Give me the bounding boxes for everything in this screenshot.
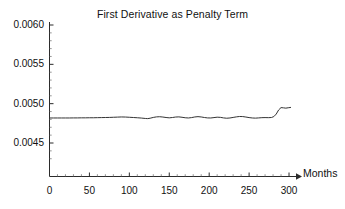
chart-figure: First Derivative as Penalty Term 0.00450… <box>0 0 345 209</box>
x-tick-label-2: 100 <box>109 186 149 196</box>
x-tick-label-0: 0 <box>30 186 70 196</box>
y-tick-label-1: 0.0050 <box>0 99 44 109</box>
x-axis-label: Months <box>303 167 337 179</box>
plot-area <box>0 0 345 209</box>
y-tick-marks <box>50 25 54 143</box>
x-axis-arrow-icon <box>296 173 302 180</box>
x-axis-group <box>50 173 303 180</box>
x-tick-label-3: 150 <box>149 186 189 196</box>
y-tick-label-0: 0.0045 <box>0 138 44 148</box>
x-tick-label-1: 50 <box>69 186 109 196</box>
x-tick-marks <box>50 173 290 177</box>
y-tick-label-3: 0.0060 <box>0 20 44 30</box>
x-tick-label-6: 300 <box>269 186 309 196</box>
data-series-line <box>50 107 291 118</box>
y-axis-group <box>50 22 54 176</box>
x-tick-label-4: 200 <box>189 186 229 196</box>
x-tick-label-5: 250 <box>229 186 269 196</box>
y-tick-label-2: 0.0055 <box>0 59 44 69</box>
